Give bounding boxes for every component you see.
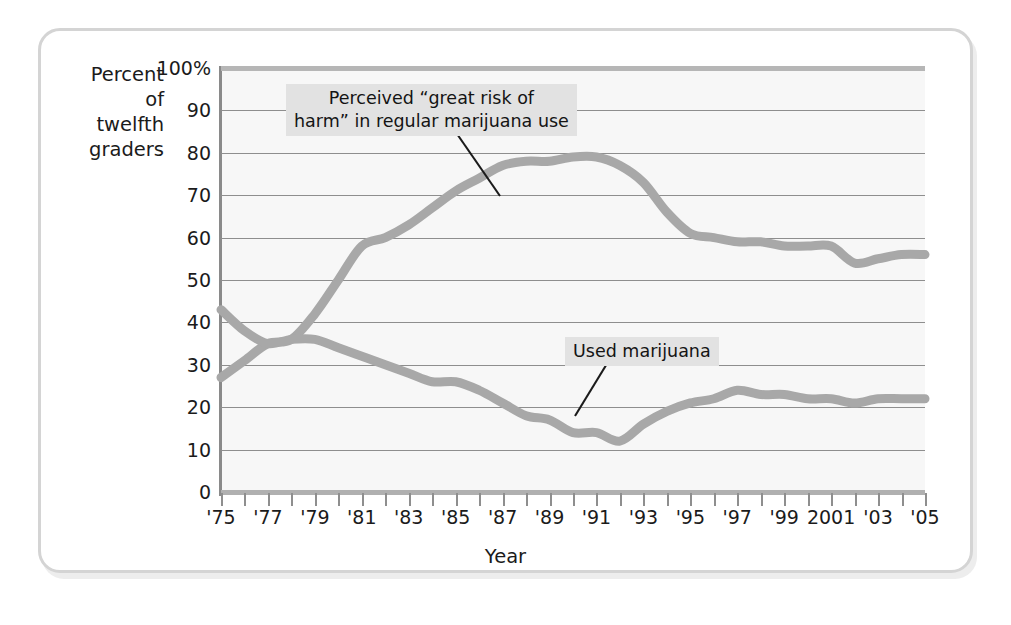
x-axis-tick bbox=[690, 493, 692, 506]
x-axis-tick bbox=[784, 493, 786, 506]
x-axis-tick-label: '81 bbox=[347, 508, 376, 527]
x-axis-tick bbox=[432, 493, 434, 506]
x-axis-tick-label: '77 bbox=[253, 508, 282, 527]
x-axis-tick-label: '97 bbox=[723, 508, 752, 527]
x-axis-tick bbox=[808, 493, 810, 506]
x-axis-tick bbox=[855, 493, 857, 506]
x-axis-tick bbox=[596, 493, 598, 506]
x-axis-tick-label: '79 bbox=[300, 508, 329, 527]
x-axis-tick bbox=[268, 493, 270, 506]
x-axis-tick bbox=[620, 493, 622, 506]
gridline bbox=[221, 450, 925, 451]
annotation-risk-line1: Perceived “great risk of bbox=[329, 88, 534, 108]
x-axis-tick bbox=[737, 493, 739, 506]
x-axis-tick bbox=[550, 493, 552, 506]
x-axis-tick bbox=[526, 493, 528, 506]
x-axis-tick-label: '83 bbox=[394, 508, 423, 527]
y-axis-tick-label: 70 bbox=[145, 186, 211, 205]
x-axis-tick bbox=[714, 493, 716, 506]
x-axis-tick bbox=[479, 493, 481, 506]
x-axis-tick-label: '03 bbox=[863, 508, 892, 527]
x-axis-tick bbox=[385, 493, 387, 506]
y-axis-tick-label: 30 bbox=[145, 356, 211, 375]
x-axis-tick-label: 2001 bbox=[807, 508, 855, 527]
gridline bbox=[221, 195, 925, 196]
y-axis-tick-label: 0 bbox=[145, 483, 211, 502]
x-axis-tick bbox=[315, 493, 317, 506]
x-axis-tick-label: '85 bbox=[441, 508, 470, 527]
y-axis-line bbox=[219, 66, 222, 496]
x-axis-tick bbox=[878, 493, 880, 506]
gridline bbox=[221, 238, 925, 239]
y-axis-tick-label: 40 bbox=[145, 313, 211, 332]
x-axis-tick-label: '93 bbox=[629, 508, 658, 527]
x-axis-tick bbox=[503, 493, 505, 506]
x-axis-tick bbox=[221, 493, 223, 506]
x-axis-tick-label: '89 bbox=[535, 508, 564, 527]
y-axis-tick-label: 100% bbox=[145, 59, 211, 78]
x-axis-tick-label: '91 bbox=[582, 508, 611, 527]
gridline bbox=[221, 280, 925, 281]
x-axis-tick-label: '05 bbox=[910, 508, 939, 527]
y-axis-tick-label: 20 bbox=[145, 398, 211, 417]
x-axis-tick bbox=[925, 493, 927, 506]
x-axis-tick bbox=[338, 493, 340, 506]
x-axis-tick bbox=[362, 493, 364, 506]
x-axis-tick bbox=[643, 493, 645, 506]
x-axis-tick bbox=[291, 493, 293, 506]
gridline bbox=[221, 407, 925, 408]
x-axis-tick-label: '87 bbox=[488, 508, 517, 527]
x-axis-tick bbox=[573, 493, 575, 506]
x-axis-tick-label: '95 bbox=[676, 508, 705, 527]
annotation-used-marijuana: Used marijuana bbox=[565, 337, 719, 366]
y-axis-tick-label: 50 bbox=[145, 271, 211, 290]
y-axis-tick-label: 80 bbox=[145, 144, 211, 163]
plot-container: 100%9080706050403020100 '75'77'79'81'83'… bbox=[0, 0, 1011, 625]
x-axis-tick bbox=[761, 493, 763, 506]
y-axis-tick-label: 60 bbox=[145, 229, 211, 248]
x-axis-tick-label: '99 bbox=[769, 508, 798, 527]
x-axis-tick bbox=[831, 493, 833, 506]
x-axis-tick bbox=[667, 493, 669, 506]
y-axis-tick-label: 90 bbox=[145, 101, 211, 120]
gridline bbox=[221, 66, 925, 71]
gridline bbox=[221, 153, 925, 154]
x-axis-tick bbox=[902, 493, 904, 506]
x-axis-tick bbox=[409, 493, 411, 506]
x-axis-title: Year bbox=[0, 545, 1011, 568]
gridline bbox=[221, 322, 925, 323]
y-axis-tick-label: 10 bbox=[145, 441, 211, 460]
annotation-perceived-risk: Perceived “great risk of harm” in regula… bbox=[286, 84, 577, 136]
x-axis-tick bbox=[456, 493, 458, 506]
x-axis-tick-label: '75 bbox=[206, 508, 235, 527]
annotation-risk-line2: harm” in regular marijuana use bbox=[294, 111, 569, 131]
x-axis-tick bbox=[244, 493, 246, 506]
